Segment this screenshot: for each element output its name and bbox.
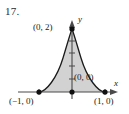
point-label-origin: (0, 0) — [74, 72, 94, 82]
point-marker-apex — [69, 26, 74, 31]
point-label-apex: (0, 2) — [33, 22, 53, 32]
x-axis-arrowhead — [110, 89, 118, 95]
point-label-left: (−1, 0) — [9, 96, 34, 106]
figure-container: 17. (0, 2) (0, 0) (−1, 0) ( — [0, 0, 129, 114]
point-marker-origin — [69, 89, 74, 94]
y-axis-label: y — [78, 14, 82, 24]
point-marker-right — [102, 89, 107, 94]
point-marker-left — [36, 89, 41, 94]
point-label-right: (1, 0) — [94, 96, 114, 106]
x-axis-label: x — [114, 78, 118, 88]
